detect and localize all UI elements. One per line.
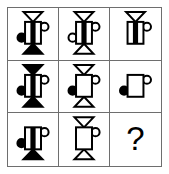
matrix-grid: ? xyxy=(7,7,162,167)
figure-cell-5 xyxy=(59,61,109,113)
top-triangle-icon xyxy=(75,65,94,75)
figure-body-stripe xyxy=(30,22,35,44)
bottom-triangle-icon xyxy=(24,44,43,54)
bottom-triangle-icon xyxy=(75,96,94,106)
top-triangle-icon xyxy=(24,65,43,75)
figure-cell-7 xyxy=(8,113,58,166)
matrix-cell-r3c1[interactable] xyxy=(8,113,59,166)
matrix-cell-r2c2[interactable] xyxy=(59,61,110,114)
matrix-cell-r1c1[interactable] xyxy=(8,8,59,61)
matrix-cell-r2c1[interactable] xyxy=(8,61,59,114)
figure-body-rectangle xyxy=(128,75,144,97)
figure-body-stripe xyxy=(81,22,86,44)
matrix-cell-r1c2[interactable] xyxy=(59,8,110,61)
top-triangle-icon xyxy=(24,12,43,22)
matrix-puzzle: ? xyxy=(0,0,169,174)
bottom-triangle-icon xyxy=(24,96,43,106)
figure-body-stripe xyxy=(30,128,35,150)
figure-body-stripe xyxy=(30,75,35,97)
figure-body-rectangle xyxy=(76,75,92,97)
top-triangle-icon xyxy=(75,12,94,22)
question-mark-placeholder: ? xyxy=(110,113,161,166)
figure-cell-2 xyxy=(59,8,109,60)
matrix-cell-r3c2[interactable] xyxy=(59,113,110,166)
figure-body-rectangle xyxy=(76,128,92,150)
bottom-triangle-icon xyxy=(75,44,94,54)
matrix-cell-r1c3[interactable] xyxy=(110,8,161,61)
bottom-triangle-icon xyxy=(75,150,94,160)
figure-cell-8 xyxy=(59,113,109,166)
figure-cell-3 xyxy=(110,8,161,60)
top-triangle-icon xyxy=(126,12,145,22)
figure-body-stripe xyxy=(133,22,138,44)
figure-cell-4 xyxy=(8,61,58,113)
figure-cell-1 xyxy=(8,8,58,60)
matrix-cell-r2c3[interactable] xyxy=(110,61,161,114)
figure-cell-6 xyxy=(110,61,161,113)
matrix-cell-r3c3[interactable]: ? xyxy=(110,113,161,166)
bottom-triangle-icon xyxy=(24,150,43,160)
top-triangle-icon xyxy=(75,118,94,128)
